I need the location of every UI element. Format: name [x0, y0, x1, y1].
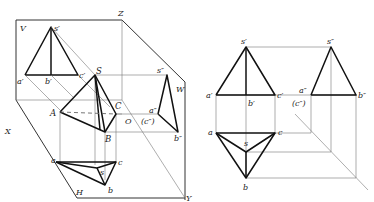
rf-point-a-prime-label: a′ — [206, 91, 213, 100]
plane-v-label: V — [20, 24, 27, 33]
point-big-s-label: S — [96, 66, 102, 76]
left-pictorial-figure: V Z X Y O W H s′ a′ b′ c′ S A B C s″ a″ … — [4, 9, 192, 202]
point-s-double-prime-label: s″ — [157, 66, 164, 75]
point-b-prime-label: b′ — [45, 77, 52, 86]
point-a-prime-label: a′ — [17, 77, 24, 86]
front-view — [216, 47, 275, 95]
front-view-on-v-plane — [25, 27, 78, 75]
axis-x-label: X — [4, 127, 11, 136]
projection-diagram: V Z X Y O W H s′ a′ b′ c′ S A B C s″ a″ … — [0, 0, 374, 202]
rf-point-c-top-label: c — [278, 128, 283, 137]
point-big-a-label: A — [49, 108, 56, 118]
rf-point-a-top-label: a — [208, 128, 213, 137]
origin-o-label: O — [125, 117, 132, 126]
point-c-top-label: c — [118, 158, 123, 167]
plane-h-label: H — [75, 188, 84, 197]
point-big-c-label: C — [115, 101, 122, 111]
rf-point-s-prime-label: s′ — [241, 37, 247, 46]
point-c-prime-label: c′ — [79, 71, 85, 80]
rf-point-b-top-label: b — [243, 183, 248, 192]
rf-point-b-prime-label: b′ — [248, 99, 255, 108]
point-big-b-label: B — [104, 134, 111, 144]
point-b-double-prime-label: b″ — [174, 134, 182, 143]
axis-z-label: Z — [117, 9, 124, 18]
point-a-double-prime-label: a″ — [149, 106, 157, 115]
point-b-top-label: b — [108, 186, 113, 195]
axis-y-label: Y — [186, 194, 192, 202]
side-view-on-w-plane — [158, 75, 178, 132]
space-pyramid — [60, 75, 116, 132]
point-c-double-prime-label: (c″) — [141, 117, 155, 126]
projection-lines — [25, 27, 178, 180]
rf-point-a-double-prime-label: a″ — [299, 86, 307, 95]
rf-point-s-double-prime-label: s″ — [327, 37, 334, 46]
right-orthographic-figure: s′ a′ b′ c′ s″ a″ (c″) b″ a c s b — [206, 37, 368, 192]
top-view-on-h-plane — [56, 162, 116, 185]
plane-w-label: W — [176, 85, 185, 94]
side-view — [311, 47, 356, 95]
point-s-top-label: s — [100, 168, 104, 177]
rf-point-b-double-prime-label: b″ — [358, 91, 366, 100]
point-s-prime-label: s′ — [54, 24, 60, 33]
rf-point-c-prime-label: c′ — [277, 91, 283, 100]
rf-point-c-double-prime-label: (c″) — [292, 99, 306, 108]
rf-point-s-top-label: s — [244, 139, 248, 148]
point-a-top-label: a — [51, 156, 56, 165]
